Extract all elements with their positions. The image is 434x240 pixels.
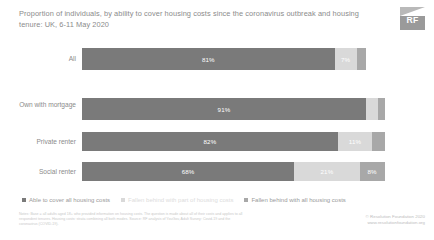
- legend-swatch-icon: [22, 198, 26, 202]
- bar-segment: 4%: [366, 98, 378, 120]
- legend-item[interactable]: Fallen behind with part of housing costs: [121, 197, 233, 203]
- bar-value-label: 7%: [341, 56, 350, 63]
- bar-value-label: 68%: [182, 168, 195, 175]
- chart-row: Own with mortgage91%4%2%: [0, 98, 434, 120]
- legend-label: Fallen behind with all housing costs: [251, 197, 345, 203]
- row-label: Private renter: [14, 138, 76, 146]
- row-label: All: [14, 55, 76, 63]
- row-bars: 91%4%2%: [82, 98, 434, 120]
- bar-segment: 21%: [294, 162, 360, 181]
- row-bars: 81%7%3%: [82, 48, 434, 70]
- legend-swatch-icon: [244, 198, 248, 202]
- bar-segment: 82%: [82, 132, 338, 151]
- row-bars: 68%21%8%: [82, 162, 434, 181]
- chart-row: Private renter82%11%4%: [0, 132, 434, 151]
- bar-segment: 91%: [82, 98, 366, 120]
- bar-segment: 3%: [357, 48, 366, 70]
- page-title: Proportion of individuals, by ability to…: [19, 9, 374, 30]
- row-label: Social renter: [14, 168, 76, 176]
- bar-value-label: 21%: [321, 168, 334, 175]
- legend-item[interactable]: Fallen behind with all housing costs: [244, 197, 345, 203]
- credit-url: www.resolutionfoundation.org: [295, 220, 425, 226]
- bar-value-label: 91%: [218, 106, 231, 113]
- legend-label: Able to cover all housing costs: [29, 197, 110, 203]
- bar-segment: 4%: [372, 132, 384, 151]
- bar-value-label: 81%: [202, 56, 215, 63]
- chart-page: Proportion of individuals, by ability to…: [0, 0, 434, 240]
- chart-credit: © Resolution Foundation 2020 www.resolut…: [295, 214, 425, 227]
- row-bars: 82%11%4%: [82, 132, 434, 151]
- bar-segment: 11%: [338, 132, 372, 151]
- bar-segment: 81%: [82, 48, 335, 70]
- chart-plot-area: All81%7%3%Own with mortgage91%4%2%Privat…: [0, 40, 434, 190]
- chart-legend: Able to cover all housing costsFallen be…: [22, 194, 422, 206]
- bar-segment: 8%: [360, 162, 385, 181]
- bar-value-label: 8%: [368, 168, 377, 175]
- bar-segment: 7%: [335, 48, 357, 70]
- bar-value-label: 82%: [204, 138, 217, 145]
- legend-item[interactable]: Able to cover all housing costs: [22, 197, 110, 203]
- legend-swatch-icon: [121, 198, 125, 202]
- chart-row: All81%7%3%: [0, 48, 434, 70]
- row-label: Own with mortgage: [14, 101, 76, 109]
- chart-notes: Notes: Base = all adults aged 18+ who pr…: [19, 212, 249, 228]
- bar-segment: 68%: [82, 162, 294, 181]
- bar-value-label: 11%: [349, 138, 361, 145]
- chart-row: Social renter68%21%8%: [0, 162, 434, 181]
- resolution-foundation-logo: RF: [400, 7, 425, 30]
- logo-text: RF: [400, 15, 425, 25]
- legend-label: Fallen behind with part of housing costs: [128, 197, 233, 203]
- bar-segment: 2%: [378, 98, 384, 120]
